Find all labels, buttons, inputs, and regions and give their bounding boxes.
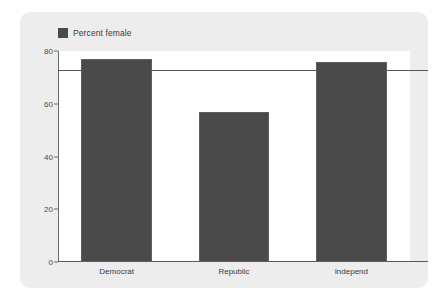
chart-card: Percent female 806040200 DemocratRepubli…: [20, 12, 428, 288]
x-axis-category-label: Democrat: [58, 267, 175, 276]
bar-slot: Independ: [293, 51, 410, 262]
plot-area: 806040200 DemocratRepublicIndepend: [58, 51, 410, 262]
bar-slot: Democrat: [58, 51, 175, 262]
legend-series-label: Percent female: [73, 28, 132, 38]
bar[interactable]: [81, 59, 151, 262]
x-axis-category-label: Republic: [175, 267, 292, 276]
chart-legend: Percent female: [58, 28, 132, 38]
bar[interactable]: [199, 112, 269, 262]
x-axis-category-label: Independ: [293, 267, 410, 276]
legend-color-swatch: [58, 28, 68, 38]
bar[interactable]: [316, 62, 386, 262]
bar-group: DemocratRepublicIndepend: [58, 51, 410, 262]
bar-slot: Republic: [175, 51, 292, 262]
